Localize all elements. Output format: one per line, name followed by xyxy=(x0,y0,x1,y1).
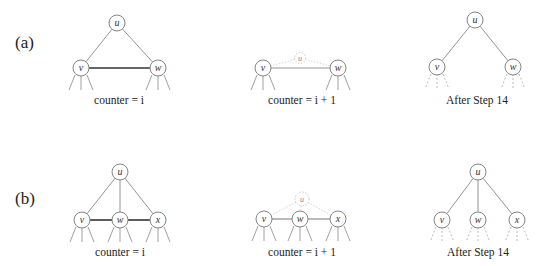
panel-0-0: uvwcounter = i xyxy=(69,15,170,106)
node-v: v xyxy=(434,212,450,228)
subtree-stubs xyxy=(70,227,94,242)
panel-1-0: uvwxcounter = i xyxy=(70,164,170,258)
subtree-stubs xyxy=(146,75,170,90)
panel-0-2: uvwAfter Step 14 xyxy=(425,12,525,107)
edge-u-v xyxy=(271,202,296,215)
edge-u-w xyxy=(122,29,152,62)
subtree-stubs xyxy=(108,227,132,242)
node-label: v xyxy=(80,214,85,225)
node-label: v xyxy=(79,62,84,73)
subtree-stubs xyxy=(288,226,312,241)
edge-u-v xyxy=(447,178,473,213)
node-label: v xyxy=(440,214,445,225)
panel-0-1: uvwcounter = i + 1 xyxy=(251,53,350,107)
subtree-stubs xyxy=(466,227,490,242)
node-w: w xyxy=(112,212,128,228)
node-x: x xyxy=(330,211,346,227)
panel-caption: counter = i xyxy=(94,94,144,106)
subtree-stubs xyxy=(505,227,529,242)
edge-u-x xyxy=(483,178,512,214)
node-label: u xyxy=(118,166,123,177)
node-label: w xyxy=(475,214,482,225)
node-label: v xyxy=(261,62,266,73)
edge-u-w xyxy=(305,59,330,66)
node-v: v xyxy=(256,211,272,227)
panel-1-2: uvwxAfter Step 14 xyxy=(430,164,529,259)
edge-u-w xyxy=(480,26,508,61)
node-label: x xyxy=(335,213,341,224)
panel-caption: counter = i xyxy=(95,246,145,258)
subtree-stubs xyxy=(251,75,275,90)
subtree-stubs xyxy=(425,74,449,89)
node-u: u xyxy=(109,15,125,31)
edge-u-w xyxy=(301,206,302,211)
subtree-stubs xyxy=(69,75,93,90)
node-u: u xyxy=(295,53,306,64)
node-label: v xyxy=(435,61,440,72)
subtree-stubs xyxy=(146,227,170,242)
panel-caption: counter = i + 1 xyxy=(268,94,336,106)
node-label: u xyxy=(115,17,120,28)
node-v: v xyxy=(429,59,445,75)
diagram-canvas: (a)uvwcounter = iuvwcounter = i + 1uvwAf… xyxy=(0,0,541,266)
node-v: v xyxy=(74,212,90,228)
edge-u-v xyxy=(271,59,295,65)
subtree-stubs xyxy=(252,226,276,241)
node-x: x xyxy=(150,212,166,228)
subtree-stubs xyxy=(501,74,525,89)
node-v: v xyxy=(255,60,271,76)
node-u: u xyxy=(467,12,483,28)
node-w: w xyxy=(330,60,346,76)
panel-caption: After Step 14 xyxy=(447,246,509,259)
node-label: w xyxy=(510,61,517,72)
node-u: u xyxy=(470,164,486,180)
node-label: u xyxy=(476,166,481,177)
node-label: w xyxy=(335,62,342,73)
node-label: w xyxy=(155,62,162,73)
node-label: w xyxy=(297,213,304,224)
node-label: u xyxy=(473,14,478,25)
node-label: x xyxy=(155,214,161,225)
subtree-stubs xyxy=(326,226,350,241)
node-w: w xyxy=(150,60,166,76)
node-u: u xyxy=(112,164,128,180)
node-w: w xyxy=(505,59,521,75)
edge-u-x xyxy=(308,202,331,215)
node-u: u xyxy=(295,192,309,206)
panel-caption: counter = i + 1 xyxy=(268,246,336,258)
edge-u-v xyxy=(86,29,112,62)
node-x: x xyxy=(509,212,525,228)
row-label: (a) xyxy=(15,33,34,52)
node-v: v xyxy=(73,60,89,76)
edge-u-x xyxy=(125,178,153,213)
row-1: (b)uvwxcounter = iuvwxcounter = i + 1uvw… xyxy=(15,164,529,259)
node-label: v xyxy=(262,213,267,224)
node-w: w xyxy=(470,212,486,228)
node-label: u xyxy=(300,195,304,204)
row-label: (b) xyxy=(15,189,35,208)
edge-u-v xyxy=(87,178,115,213)
node-label: u xyxy=(298,54,302,63)
node-label: x xyxy=(514,214,520,225)
row-0: (a)uvwcounter = iuvwcounter = i + 1uvwAf… xyxy=(15,12,525,107)
panel-1-1: uvwxcounter = i + 1 xyxy=(252,192,350,258)
edge-u-v xyxy=(442,26,470,61)
subtree-stubs xyxy=(326,75,350,90)
panel-caption: After Step 14 xyxy=(446,94,508,107)
subtree-stubs xyxy=(430,227,454,242)
node-label: w xyxy=(117,214,124,225)
node-w: w xyxy=(292,211,308,227)
